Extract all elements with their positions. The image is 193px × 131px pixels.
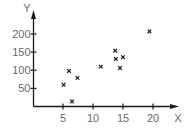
axes — [31, 10, 179, 109]
tick-labels: 510152050100150200 — [12, 28, 159, 124]
x-marker-icon — [76, 76, 80, 80]
x-marker-icon — [62, 83, 66, 87]
x-marker-icon — [118, 66, 122, 70]
x-marker-icon — [148, 30, 152, 34]
y-tick-label: 50 — [18, 82, 30, 94]
x-marker-icon — [114, 57, 118, 61]
y-tick-label: 200 — [12, 28, 30, 40]
x-tick-label: 10 — [87, 112, 99, 124]
y-axis-label: Y — [23, 2, 31, 14]
x-marker-icon — [70, 100, 74, 104]
data-points — [62, 30, 151, 104]
y-tick-label: 150 — [12, 46, 30, 58]
x-marker-icon — [121, 55, 125, 59]
ticks — [31, 34, 154, 110]
scatter-chart: 510152050100150200 X Y — [0, 0, 193, 131]
x-tick-label: 15 — [117, 112, 129, 124]
x-marker-icon — [99, 65, 103, 69]
y-axis-arrow-icon — [31, 10, 36, 19]
x-tick-label: 20 — [147, 112, 159, 124]
x-axis-arrow-icon — [170, 104, 179, 109]
x-marker-icon — [67, 69, 71, 73]
x-tick-label: 5 — [60, 112, 66, 124]
x-marker-icon — [113, 49, 117, 53]
y-tick-label: 100 — [12, 64, 30, 76]
x-axis-label: X — [174, 112, 182, 124]
